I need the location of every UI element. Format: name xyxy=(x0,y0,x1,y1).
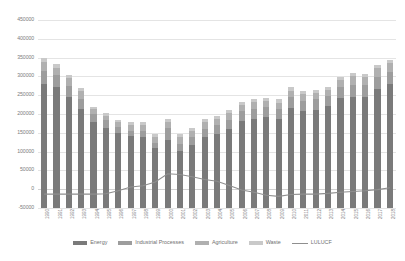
x-axis-tick-label: 2006 xyxy=(244,209,249,219)
x-axis-tick-label: 2018 xyxy=(392,209,397,219)
x-axis-tick-label: 1990 xyxy=(46,209,51,219)
x-axis-tick-label: 2012 xyxy=(318,209,323,219)
legend-swatch-industrial-icon xyxy=(118,241,132,245)
x-axis-tick-label: 1999 xyxy=(157,209,162,219)
legend-swatch-lulucf-icon xyxy=(292,243,308,244)
x-axis-tick-label: 2013 xyxy=(330,209,335,219)
y-axis-tick-label: 150000 xyxy=(17,130,34,135)
x-axis-tick-label: 2000 xyxy=(170,209,175,219)
x-axis-tick-label: 1996 xyxy=(120,209,125,219)
y-axis-tick-label: 0 xyxy=(31,187,34,192)
x-axis-tick-label: 1998 xyxy=(145,209,150,219)
legend-swatch-agriculture-icon xyxy=(195,241,209,245)
x-axis-tick-label: 1994 xyxy=(96,209,101,219)
plot-area: 4500004000003500003000002500002000001500… xyxy=(38,20,396,208)
x-axis-tick-label: 2010 xyxy=(293,209,298,219)
legend-label: LULUCF xyxy=(311,240,332,245)
y-axis-tick-label: 200000 xyxy=(17,111,34,116)
x-axis-tick-label: 2016 xyxy=(367,209,372,219)
x-axis-tick-label: 2007 xyxy=(256,209,261,219)
y-axis-tick-label: 450000 xyxy=(17,17,34,22)
x-axis-tick-label: 2009 xyxy=(281,209,286,219)
legend-label: Energy xyxy=(90,240,107,245)
y-axis-tick-label: 350000 xyxy=(17,55,34,60)
x-axis-tick-label: 1997 xyxy=(133,209,138,219)
x-axis-tick-label: 1993 xyxy=(83,209,88,219)
legend-label: Agriculture xyxy=(212,240,238,245)
legend-label: Industrial Processes xyxy=(135,240,184,245)
x-axis-tick-label: 2002 xyxy=(194,209,199,219)
legend-item-lulucf[interactable]: LULUCF xyxy=(292,240,332,245)
legend-item-industrial[interactable]: Industrial Processes xyxy=(118,240,184,245)
x-axis-tick-label: 2017 xyxy=(379,209,384,219)
legend-swatch-waste-icon xyxy=(249,241,263,245)
x-axis-tick-label: 2008 xyxy=(268,209,273,219)
stacked-bar-chart: 4500004000003500003000002500002000001500… xyxy=(0,0,405,261)
lulucf-line-path xyxy=(44,174,390,197)
legend-swatch-energy-icon xyxy=(73,241,87,245)
x-axis-tick-label: 2005 xyxy=(231,209,236,219)
x-axis-tick-label: 1995 xyxy=(108,209,113,219)
x-axis-tick-label: 2004 xyxy=(219,209,224,219)
y-axis-tick-label: 300000 xyxy=(17,74,34,79)
x-axis-tick-label: 2015 xyxy=(355,209,360,219)
chart-legend: EnergyIndustrial ProcessesAgricultureWas… xyxy=(0,236,405,250)
y-axis-tick-label: -50000 xyxy=(18,205,34,210)
x-axis-tick-label: 2003 xyxy=(207,209,212,219)
y-axis-tick-label: 250000 xyxy=(17,93,34,98)
x-axis-labels: 1990199119921993199419951996199719981999… xyxy=(38,209,396,233)
y-axis-tick-label: 100000 xyxy=(17,149,34,154)
x-axis-tick-label: 2014 xyxy=(342,209,347,219)
legend-label: Waste xyxy=(266,240,281,245)
legend-item-waste[interactable]: Waste xyxy=(249,240,281,245)
legend-item-energy[interactable]: Energy xyxy=(73,240,107,245)
x-axis-tick-label: 2011 xyxy=(305,209,310,219)
y-axis-tick-label: 50000 xyxy=(20,168,34,173)
x-axis-tick-label: 2001 xyxy=(182,209,187,219)
legend-item-agriculture[interactable]: Agriculture xyxy=(195,240,238,245)
x-axis-tick-label: 1991 xyxy=(59,209,64,219)
lulucf-line-series xyxy=(38,20,396,208)
y-axis-tick-label: 400000 xyxy=(17,36,34,41)
x-axis-tick-label: 1992 xyxy=(71,209,76,219)
